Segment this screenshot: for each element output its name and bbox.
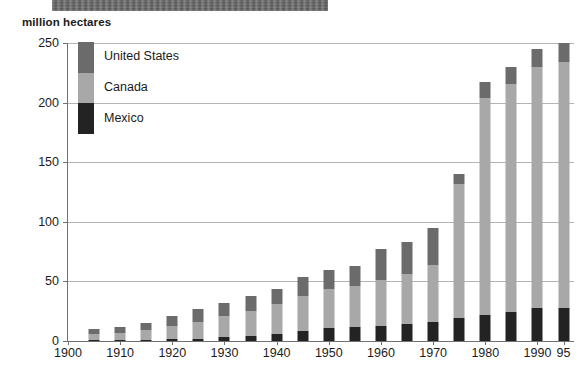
bar-1980 [480, 82, 491, 341]
bar-segment-mexico [480, 315, 491, 341]
bar-1930 [219, 303, 230, 341]
bar-segment-canada [115, 333, 126, 340]
bar-segment-united-states [532, 49, 543, 67]
gridline [68, 162, 574, 163]
x-axis-tick [433, 341, 434, 345]
bar-segment-canada [532, 67, 543, 308]
x-axis-tick-label: 1980 [471, 346, 499, 360]
bar-segment-canada [375, 280, 386, 325]
bar-1970 [428, 228, 439, 341]
bar-segment-canada [323, 289, 334, 328]
x-axis-tick [564, 341, 565, 345]
y-axis-tick-label: 200 [38, 96, 59, 110]
bar-segment-united-states [402, 242, 413, 274]
legend-swatch-canada [78, 73, 94, 103]
x-axis-tick [120, 341, 121, 345]
x-axis-tick [485, 341, 486, 345]
y-axis-tick-label: 100 [38, 215, 59, 229]
bar-segment-canada [558, 62, 569, 308]
bar-segment-mexico [375, 326, 386, 341]
title-banner [52, 0, 328, 11]
bar-segment-mexico [323, 328, 334, 341]
bar-segment-mexico [271, 334, 282, 341]
legend-label-canada: Canada [104, 80, 148, 94]
y-axis-tick [63, 103, 68, 104]
y-axis-tick-label: 50 [45, 274, 59, 288]
bar-1950 [323, 270, 334, 342]
bar-segment-canada [454, 184, 465, 319]
bar-segment-canada [506, 84, 517, 313]
bar-1960 [375, 249, 386, 341]
y-axis-tick [63, 281, 68, 282]
y-axis-tick [63, 222, 68, 223]
bar-segment-mexico [297, 331, 308, 341]
bar-1955 [349, 266, 360, 341]
bar-1920 [167, 316, 178, 341]
bar-segment-canada [402, 274, 413, 324]
bar-segment-canada [271, 304, 282, 334]
x-axis-tick-label: 1900 [54, 346, 82, 360]
legend: United States Canada Mexico [78, 42, 208, 134]
bar-segment-mexico [558, 308, 569, 341]
gridline [68, 281, 574, 282]
legend-label-mexico: Mexico [104, 111, 144, 125]
bar-segment-canada [167, 326, 178, 339]
bar-segment-mexico [532, 308, 543, 341]
x-axis-tick-label: 1910 [106, 346, 134, 360]
bar-segment-united-states [558, 43, 569, 62]
bar-segment-mexico [193, 339, 204, 341]
bar-segment-united-states [271, 289, 282, 304]
x-axis-tick [172, 341, 173, 345]
y-axis-tick [63, 162, 68, 163]
bar-1965 [402, 242, 413, 341]
bar-segment-united-states [297, 277, 308, 296]
bar-segment-mexico [245, 336, 256, 341]
bar-segment-united-states [428, 228, 439, 265]
x-axis-tick-label: 1930 [211, 346, 239, 360]
bar-1995 [558, 43, 569, 341]
bar-segment-united-states [480, 82, 491, 97]
bar-segment-united-states [219, 303, 230, 316]
bar-segment-mexico [454, 318, 465, 341]
gridline [68, 222, 574, 223]
bar-segment-mexico [428, 322, 439, 341]
bar-segment-mexico [89, 340, 100, 341]
bar-1975 [454, 174, 465, 341]
bar-segment-united-states [245, 296, 256, 311]
bar-segment-canada [349, 286, 360, 327]
bar-1935 [245, 296, 256, 341]
y-axis-line [67, 43, 68, 341]
bar-segment-united-states [167, 316, 178, 326]
x-axis-tick [68, 341, 69, 345]
x-axis-tick [329, 341, 330, 345]
bar-segment-united-states [375, 249, 386, 280]
x-axis-tick [537, 341, 538, 345]
x-axis-line [67, 341, 574, 342]
bar-segment-canada [193, 322, 204, 339]
bar-segment-mexico [402, 324, 413, 341]
bar-1915 [141, 323, 152, 341]
x-axis-tick [224, 341, 225, 345]
bar-segment-united-states [454, 174, 465, 184]
bar-1990 [532, 49, 543, 341]
bar-segment-canada [297, 296, 308, 332]
bar-segment-canada [245, 311, 256, 336]
x-axis-tick-label: 1920 [158, 346, 186, 360]
bar-segment-united-states [323, 270, 334, 289]
x-axis-tick [381, 341, 382, 345]
bar-segment-canada [480, 98, 491, 315]
bar-1910 [115, 327, 126, 341]
legend-swatch-mexico [78, 103, 94, 134]
x-axis-tick-label: 95 [557, 346, 571, 360]
x-axis-tick-label: 1970 [419, 346, 447, 360]
legend-swatch-stack [78, 42, 94, 134]
x-axis-tick-label: 1960 [367, 346, 395, 360]
bar-1985 [506, 67, 517, 341]
x-axis-tick-label: 1940 [263, 346, 291, 360]
y-axis-tick-label: 150 [38, 155, 59, 169]
y-axis-tick [63, 43, 68, 44]
bar-segment-united-states [506, 67, 517, 84]
y-axis-tick-label: 250 [38, 36, 59, 50]
x-axis-tick [277, 341, 278, 345]
bar-1945 [297, 277, 308, 341]
